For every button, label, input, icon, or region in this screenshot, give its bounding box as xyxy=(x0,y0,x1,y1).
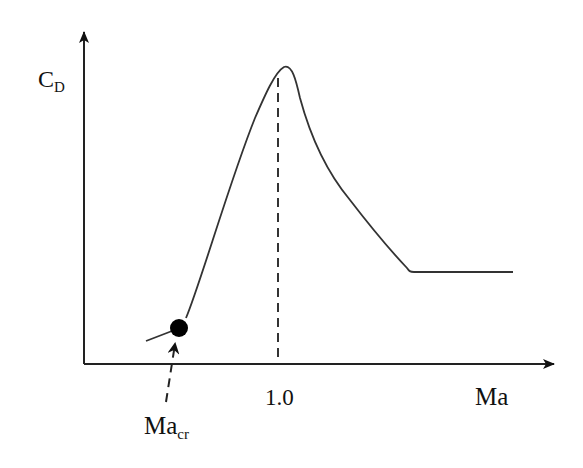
critical-mach-arrow xyxy=(166,344,175,402)
y-axis-label-main: C xyxy=(38,66,54,92)
x-tick-1-0: 1.0 xyxy=(265,385,294,411)
y-axis-label-sub: D xyxy=(54,79,65,95)
drag-curve xyxy=(146,67,513,341)
y-axis-label: CD xyxy=(38,66,65,96)
x-axis-label: Ma xyxy=(475,383,508,411)
critical-mach-label-main: Ma xyxy=(144,412,177,439)
critical-mach-point xyxy=(170,319,188,337)
critical-mach-label: Macr xyxy=(144,412,189,443)
critical-mach-label-sub: cr xyxy=(177,426,189,442)
